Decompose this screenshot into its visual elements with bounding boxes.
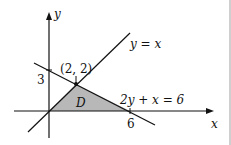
line1-label: y = x (129, 37, 161, 51)
line2-label: 2y + x = 6 (119, 93, 185, 107)
x-axis-label: x (211, 117, 218, 131)
region-d-shading (49, 84, 130, 111)
y-intercept-label: 3 (37, 73, 45, 87)
intersection-point (74, 82, 78, 86)
region-label: D (75, 96, 86, 110)
x-axis-arrow-icon (206, 108, 214, 114)
point-label: (2, 2) (60, 62, 92, 76)
y-axis-label: y (53, 7, 61, 21)
region-diagram: y x y = x 2y + x = 6 (2, 2) 3 6 D (0, 0, 231, 145)
right-edge-border (229, 0, 231, 145)
x-intercept-label: 6 (127, 117, 135, 131)
y-axis-arrow-icon (46, 12, 52, 20)
